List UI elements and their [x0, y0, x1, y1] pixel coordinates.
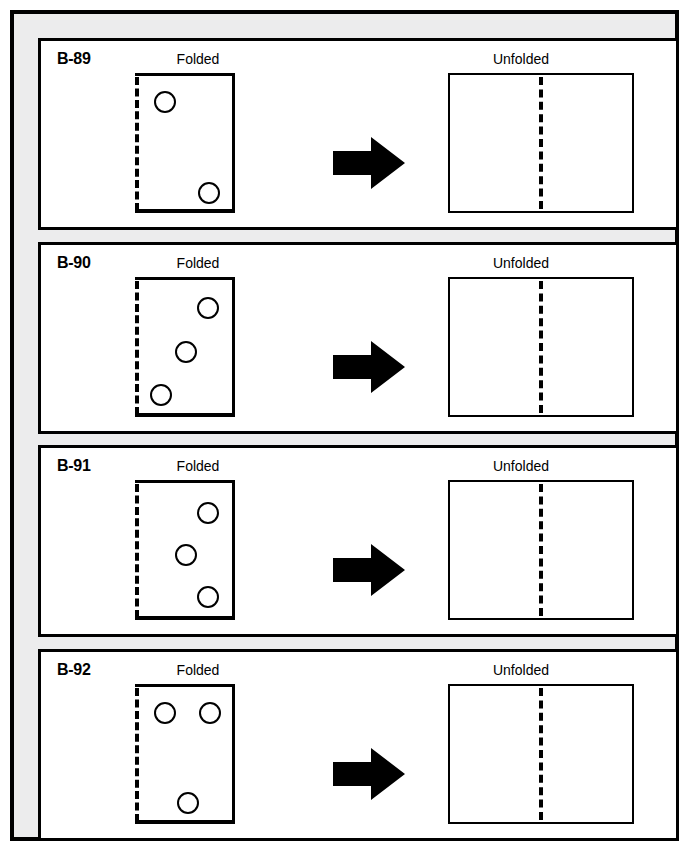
fold-crease-line: [135, 281, 139, 415]
item-panel: B-90 Folded Unfolded: [38, 242, 679, 434]
sheet-top-edge: [135, 480, 235, 483]
fold-crease-line: [539, 77, 543, 209]
unfolded-caption: Unfolded: [421, 662, 621, 678]
fold-crease-line: [539, 688, 543, 820]
item-panel: B-89 Folded Unfolded: [38, 38, 679, 230]
fold-crease-line: [135, 688, 139, 822]
item-panel: B-91 Folded Unfolded: [38, 445, 679, 637]
folded-sheet: [135, 684, 235, 824]
unfolded-sheet: [448, 480, 634, 620]
folded-caption: Folded: [133, 458, 263, 474]
outer-frame: B-89 Folded Unfolded: [10, 10, 679, 841]
folded-caption: Folded: [133, 662, 263, 678]
right-arrow-icon: [333, 544, 405, 596]
punched-hole: [175, 341, 197, 363]
sheet-bottom-edge: [135, 616, 235, 620]
folded-sheet: [135, 480, 235, 620]
folded-caption: Folded: [133, 51, 263, 67]
unfolded-caption: Unfolded: [421, 51, 621, 67]
sheet-bottom-edge: [135, 820, 235, 824]
fold-crease-line: [135, 77, 139, 211]
folded-sheet: [135, 73, 235, 213]
right-arrow-icon: [333, 137, 405, 189]
right-arrow-icon: [333, 748, 405, 800]
right-arrow-icon: [333, 341, 405, 393]
sheet-bottom-edge: [135, 209, 235, 213]
panel-code-label: B-91: [57, 457, 90, 475]
panel-code-label: B-89: [57, 50, 90, 68]
unfolded-caption: Unfolded: [421, 458, 621, 474]
fold-crease-line: [135, 484, 139, 618]
panel-stack: B-89 Folded Unfolded: [38, 38, 679, 841]
punched-hole: [175, 544, 197, 566]
paper-folding-test-page: B-89 Folded Unfolded: [0, 0, 689, 851]
folded-sheet: [135, 277, 235, 417]
punched-hole: [154, 91, 176, 113]
unfolded-sheet: [448, 73, 634, 213]
sheet-top-edge: [135, 73, 235, 76]
fold-crease-line: [539, 484, 543, 616]
sheet-right-edge: [232, 480, 235, 620]
fold-crease-line: [539, 281, 543, 413]
sheet-top-edge: [135, 277, 235, 280]
punched-hole: [198, 182, 220, 204]
unfolded-sheet: [448, 684, 634, 824]
panel-code-label: B-90: [57, 254, 90, 272]
punched-hole: [154, 702, 176, 724]
unfolded-caption: Unfolded: [421, 255, 621, 271]
punched-hole: [197, 297, 219, 319]
punched-hole: [177, 792, 199, 814]
punched-hole: [199, 702, 221, 724]
punched-hole: [197, 502, 219, 524]
sheet-right-edge: [232, 277, 235, 417]
sheet-top-edge: [135, 684, 235, 687]
punched-hole: [197, 586, 219, 608]
item-panel: B-92 Folded Unfolded: [38, 649, 679, 841]
sheet-bottom-edge: [135, 413, 235, 417]
panel-code-label: B-92: [57, 661, 90, 679]
sheet-right-edge: [232, 684, 235, 824]
punched-hole: [150, 384, 172, 406]
folded-caption: Folded: [133, 255, 263, 271]
sheet-right-edge: [232, 73, 235, 213]
unfolded-sheet: [448, 277, 634, 417]
